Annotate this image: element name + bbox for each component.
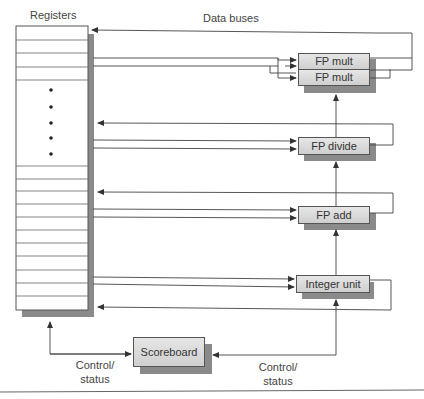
control-status-right-label: Control/ status	[248, 360, 308, 388]
scoreboard-unit: Scoreboard	[133, 337, 205, 367]
fp-mult-unit-2: FP mult	[298, 69, 370, 86]
registers-label: Registers	[30, 9, 76, 21]
integer-unit: Integer unit	[296, 275, 370, 293]
fp-divide-unit: FP divide	[298, 137, 370, 155]
fp-add-unit: FP add	[298, 206, 370, 224]
data-buses-label: Data buses	[203, 12, 259, 24]
control-status-left-label: Control/ status	[65, 358, 125, 386]
fp-mult-unit-1: FP mult	[298, 53, 370, 70]
